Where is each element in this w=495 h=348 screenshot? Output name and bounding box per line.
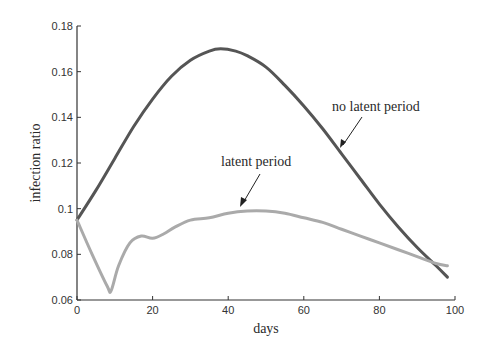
x-tick-label: 100 bbox=[446, 304, 464, 316]
line-chart: 0204060801000.060.080.10.120.140.160.18 … bbox=[0, 0, 495, 348]
x-tick-label: 20 bbox=[146, 304, 158, 316]
arrow-no-latent-period bbox=[343, 117, 362, 145]
y-tick-label: 0.18 bbox=[52, 20, 73, 32]
annotation-latent-period: latent period bbox=[221, 154, 291, 169]
x-tick-label: 0 bbox=[74, 304, 80, 316]
x-axis-title: days bbox=[253, 321, 279, 336]
arrowhead-no-latent-period-icon bbox=[340, 139, 346, 148]
y-tick-label: 0.1 bbox=[58, 203, 73, 215]
arrow-latent-period bbox=[243, 174, 260, 203]
y-tick-label: 0.16 bbox=[52, 66, 73, 78]
y-tick-label: 0.12 bbox=[52, 157, 73, 169]
y-tick-label: 0.08 bbox=[52, 248, 73, 260]
x-tick-label: 40 bbox=[222, 304, 234, 316]
series-latent-period bbox=[77, 211, 447, 293]
x-tick-label: 80 bbox=[373, 304, 385, 316]
y-tick-label: 0.06 bbox=[52, 294, 73, 306]
y-tick-label: 0.14 bbox=[52, 111, 73, 123]
x-tick-label: 60 bbox=[298, 304, 310, 316]
series-group bbox=[77, 49, 447, 293]
y-axis-title: infection ratio bbox=[28, 124, 43, 203]
annotation-no-latent-period: no latent period bbox=[332, 99, 420, 114]
annotations: no latent period latent period bbox=[221, 99, 420, 207]
